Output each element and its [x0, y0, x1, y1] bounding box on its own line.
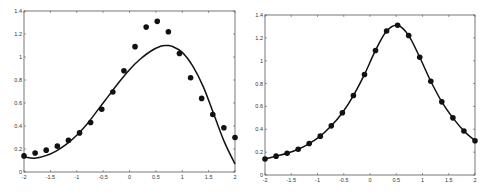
x-tick-label: -1	[74, 174, 79, 180]
data-point-marker	[55, 143, 61, 149]
data-point-marker	[461, 128, 467, 134]
right-plot: -2-1.5-1-0.500.511.5200.20.40.60.811.21.…	[255, 12, 477, 183]
data-point-marker	[439, 99, 445, 105]
x-tick-label: 0	[368, 177, 371, 183]
data-point-marker	[351, 93, 357, 99]
data-point-marker	[221, 125, 227, 131]
left-plot: -2-1.5-1-0.500.511.5200.20.40.60.811.21.…	[14, 8, 237, 180]
data-point-marker	[232, 135, 238, 141]
y-tick-label: 0.8	[14, 77, 22, 83]
y-tick-label: 0	[260, 172, 263, 178]
data-point-marker	[317, 133, 323, 139]
data-point-marker	[306, 141, 312, 147]
x-tick-label: -2	[22, 174, 27, 180]
data-point-marker	[450, 115, 456, 121]
data-point-marker	[284, 150, 290, 156]
y-tick-label: 1.2	[14, 31, 22, 37]
series-curve	[265, 25, 475, 159]
data-point-marker	[199, 96, 205, 102]
data-point-marker	[43, 147, 49, 153]
data-point-marker	[329, 123, 335, 129]
x-tick-label: 1.5	[205, 174, 213, 180]
x-tick-label: -0.5	[98, 174, 107, 180]
data-point-marker	[32, 150, 38, 156]
y-tick-label: 0.4	[255, 126, 263, 132]
y-tick-label: 0.2	[255, 149, 263, 155]
x-tick-label: 1	[181, 174, 184, 180]
x-tick-label: -1.5	[46, 174, 55, 180]
data-point-marker	[295, 146, 301, 152]
data-point-marker	[340, 110, 346, 116]
y-tick-label: 0.4	[14, 123, 22, 129]
x-tick-label: -0.5	[339, 177, 348, 183]
data-point-marker	[154, 19, 160, 25]
x-tick-label: -1	[315, 177, 320, 183]
x-tick-label: -1.5	[287, 177, 296, 183]
y-tick-label: 1	[260, 58, 263, 64]
data-point-marker	[143, 24, 149, 30]
data-point-marker	[472, 138, 478, 144]
data-point-marker	[384, 28, 390, 34]
data-point-marker	[166, 29, 172, 35]
y-tick-label: 1	[19, 54, 22, 60]
figure-canvas: -2-1.5-1-0.500.511.5200.20.40.60.811.21.…	[0, 0, 493, 195]
y-tick-label: 0.6	[14, 100, 22, 106]
y-tick-label: 1.4	[14, 8, 22, 14]
x-tick-label: 2	[233, 174, 236, 180]
x-tick-label: 1.5	[445, 177, 453, 183]
data-point-marker	[406, 33, 412, 39]
data-point-marker	[428, 78, 434, 84]
data-point-marker	[417, 54, 423, 60]
x-tick-label: 0.5	[152, 174, 160, 180]
data-point-marker	[273, 153, 279, 159]
y-tick-label: 0	[19, 169, 22, 175]
data-point-marker	[262, 156, 268, 162]
x-tick-label: 2	[473, 177, 476, 183]
data-point-marker	[373, 48, 379, 54]
y-tick-label: 1.4	[255, 12, 263, 18]
x-tick-label: 1	[421, 177, 424, 183]
y-tick-label: 0.6	[255, 103, 263, 109]
data-point-marker	[395, 22, 401, 28]
data-point-marker	[132, 44, 138, 50]
y-tick-label: 0.2	[14, 146, 22, 152]
y-tick-label: 0.8	[255, 81, 263, 87]
data-point-marker	[188, 75, 194, 81]
x-tick-label: -2	[263, 177, 268, 183]
x-tick-label: 0.5	[392, 177, 400, 183]
data-point-marker	[362, 72, 368, 78]
x-tick-label: 0	[128, 174, 131, 180]
y-tick-label: 1.2	[255, 35, 263, 41]
